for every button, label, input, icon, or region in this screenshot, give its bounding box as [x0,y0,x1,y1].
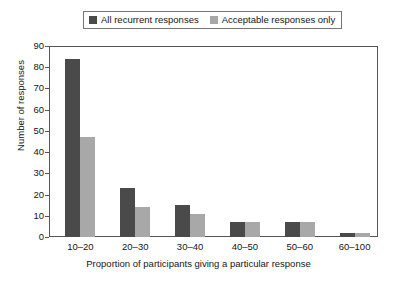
x-tick-label: 40–50 [215,241,275,252]
bar-group [285,46,315,237]
x-tick-label: 20–30 [105,241,165,252]
y-tick-label: 0 [18,232,44,242]
x-tick-label: 50–60 [270,241,330,252]
bar [340,233,355,237]
y-tick-label: 20 [18,190,44,200]
bar-group [120,46,150,237]
bar-group [230,46,260,237]
y-axis-ticks: 0102030405060708090 [0,0,49,288]
chart-legend: All recurrent responses Acceptable respo… [83,11,342,29]
bar [300,222,315,237]
legend-swatch-icon-dark [89,16,97,24]
legend-entry-acceptable-responses-only: Acceptable responses only [210,14,336,25]
bar [175,205,190,237]
x-axis-ticks: 10–2020–3030–4040–5050–6060–100 [49,238,378,256]
x-axis-title: Proportion of participants giving a part… [0,258,397,269]
bar [245,222,260,237]
bar [190,214,205,237]
bar-groups [49,46,378,237]
y-tick-label: 80 [18,62,44,72]
bar [65,59,80,237]
y-tick-label: 60 [18,105,44,115]
bar-group [340,46,370,237]
bar [80,137,95,237]
bar [120,188,135,237]
legend-swatch-icon-light [210,16,218,24]
bar [135,207,150,237]
bar-group [175,46,205,237]
y-tick-label: 40 [18,147,44,157]
y-tick-label: 30 [18,168,44,178]
bar [285,222,300,237]
y-tick-label: 10 [18,211,44,221]
y-tick-label: 50 [18,126,44,136]
legend-label-all-recurrent-responses: All recurrent responses [101,14,199,25]
legend-label-acceptable-responses-only: Acceptable responses only [222,14,336,25]
bar [355,233,370,237]
bar-group [65,46,95,237]
bar [230,222,245,237]
x-tick-label: 60–100 [325,241,385,252]
y-tick-label: 70 [18,83,44,93]
y-tick-label: 90 [18,41,44,51]
bar-chart-figure: All recurrent responses Acceptable respo… [0,0,397,288]
x-tick-label: 10–20 [50,241,110,252]
x-tick-label: 30–40 [160,241,220,252]
legend-entry-all-recurrent-responses: All recurrent responses [89,14,199,25]
